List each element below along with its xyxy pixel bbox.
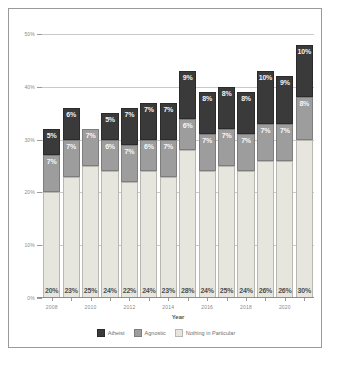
bar-segment[interactable]: 6% (63, 108, 80, 140)
bar-group[interactable]: 6%7%23% (63, 108, 80, 298)
bar-segment[interactable]: 24% (101, 171, 118, 298)
bar-segment[interactable]: 7% (199, 134, 216, 171)
bar-segment[interactable]: 10% (296, 45, 313, 98)
legend-item[interactable]: Nothing in Particular (175, 329, 236, 337)
bar-segment[interactable]: 7% (160, 140, 177, 177)
bar-segment[interactable]: 24% (140, 171, 157, 298)
bar-value-label: 8% (241, 95, 251, 102)
legend-item[interactable]: Agnostic (134, 329, 166, 337)
bar-segment[interactable]: 7% (276, 124, 293, 161)
bar-segment[interactable]: 7% (237, 134, 254, 171)
bar-group[interactable]: 8%7%24% (199, 92, 216, 298)
bar-segment[interactable]: 26% (276, 161, 293, 298)
legend-label: Nothing in Particular (186, 330, 236, 336)
bar-segment[interactable]: 28% (179, 150, 196, 298)
bar-value-label: 24% (200, 287, 213, 294)
legend-swatch-icon (175, 329, 183, 337)
bar-segment[interactable]: 25% (218, 166, 235, 298)
bar-segment[interactable]: 25% (82, 166, 99, 298)
bar-segment[interactable]: 10% (257, 71, 274, 124)
bar-value-label: 7% (280, 127, 290, 134)
x-axis-tick-label: 2018 (240, 304, 252, 310)
bar-segment[interactable]: 30% (296, 140, 313, 298)
bar-segment[interactable]: 7% (218, 129, 235, 166)
x-axis-tick (246, 298, 247, 301)
bar-segment[interactable]: 8% (199, 92, 216, 134)
bar-segment[interactable]: 23% (63, 177, 80, 298)
x-axis-tick-label: 2010 (85, 304, 97, 310)
bar-segment[interactable]: 24% (199, 171, 216, 298)
bar-segment[interactable]: 8% (218, 87, 235, 129)
bar-segment[interactable]: 5% (101, 113, 118, 139)
y-axis-tick-label: 10% (24, 242, 35, 248)
bar-group[interactable]: 9%6%28% (179, 71, 196, 298)
bar-value-label: 7% (222, 132, 232, 139)
bar-segment[interactable]: 7% (63, 140, 80, 177)
bar-value-label: 7% (47, 158, 57, 165)
bar-value-label: 8% (299, 100, 309, 107)
bar-group[interactable]: 7%6%24% (140, 103, 157, 298)
bar-segment[interactable]: 7% (140, 103, 157, 140)
bar-value-label: 6% (183, 122, 193, 129)
bar-series-container: 5%7%20%6%7%23%7%25%5%6%24%7%7%22%7%6%24%… (42, 34, 314, 298)
bar-segment[interactable]: 9% (179, 71, 196, 119)
bar-segment[interactable]: 20% (43, 192, 60, 298)
bar-group[interactable]: 8%7%24% (237, 92, 254, 298)
bar-segment[interactable]: 7% (82, 129, 99, 166)
bar-segment[interactable]: 26% (257, 161, 274, 298)
x-axis-tick (188, 298, 189, 301)
y-axis-tick-label: 50% (24, 31, 35, 37)
bar-value-label: 26% (278, 287, 291, 294)
bar-segment[interactable]: 24% (237, 171, 254, 298)
bar-segment[interactable]: 7% (257, 124, 274, 161)
x-axis-tick (110, 298, 111, 301)
bar-segment[interactable]: 7% (160, 103, 177, 140)
bar-group[interactable]: 7%7%23% (160, 103, 177, 298)
bar-segment[interactable]: 5% (43, 129, 60, 155)
x-axis-tick-label: 2016 (201, 304, 213, 310)
bar-value-label: 22% (123, 287, 136, 294)
y-axis-tick-label: 20% (24, 189, 35, 195)
x-axis-tick (285, 298, 286, 301)
bar-value-label: 5% (105, 116, 115, 123)
x-axis-tick (304, 298, 305, 301)
x-axis-tick (227, 298, 228, 301)
bar-group[interactable]: 5%7%20% (43, 129, 60, 298)
bar-group[interactable]: 9%7%26% (276, 76, 293, 298)
y-axis-tick-label: 0% (27, 295, 35, 301)
bar-group[interactable]: 10%7%26% (257, 71, 274, 298)
bar-group[interactable]: 8%7%25% (218, 87, 235, 298)
bar-group[interactable]: 10%8%30% (296, 45, 313, 298)
bar-segment[interactable]: 8% (237, 92, 254, 134)
x-axis-tick (71, 298, 72, 301)
bar-group[interactable]: 7%25% (82, 129, 99, 298)
bar-group[interactable]: 7%7%22% (121, 108, 138, 298)
bar-value-label: 25% (220, 287, 233, 294)
bar-value-label: 20% (45, 287, 58, 294)
legend-swatch-icon (134, 329, 142, 337)
bar-value-label: 7% (86, 132, 96, 139)
bar-segment[interactable]: 7% (121, 108, 138, 145)
bar-value-label: 5% (47, 132, 57, 139)
bar-segment[interactable]: 6% (140, 140, 157, 172)
x-axis-tick (207, 298, 208, 301)
bar-segment[interactable]: 22% (121, 182, 138, 298)
bar-segment[interactable]: 6% (179, 119, 196, 151)
bar-value-label: 7% (125, 111, 135, 118)
legend-item[interactable]: Atheist (97, 329, 125, 337)
bar-value-label: 25% (84, 287, 97, 294)
bar-segment[interactable]: 23% (160, 177, 177, 298)
bar-segment[interactable]: 7% (43, 155, 60, 192)
bar-value-label: 7% (144, 106, 154, 113)
x-axis-tick (52, 298, 53, 301)
bar-segment[interactable]: 6% (101, 140, 118, 172)
x-axis-tick (149, 298, 150, 301)
x-axis-tick (91, 298, 92, 301)
y-axis-tick-label: 40% (24, 84, 35, 90)
bar-segment[interactable]: 8% (296, 97, 313, 139)
bar-value-label: 24% (103, 287, 116, 294)
bar-value-label: 24% (142, 287, 155, 294)
bar-segment[interactable]: 9% (276, 76, 293, 124)
bar-segment[interactable]: 7% (121, 145, 138, 182)
bar-group[interactable]: 5%6%24% (101, 113, 118, 298)
